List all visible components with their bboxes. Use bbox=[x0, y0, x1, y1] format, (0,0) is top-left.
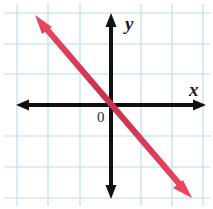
y-axis-label: y bbox=[123, 13, 134, 34]
origin-label: 0 bbox=[97, 109, 105, 125]
coordinate-plane-figure: y x 0 bbox=[0, 0, 213, 209]
x-axis-label: x bbox=[188, 79, 199, 100]
graph-canvas: y x 0 bbox=[0, 0, 213, 209]
